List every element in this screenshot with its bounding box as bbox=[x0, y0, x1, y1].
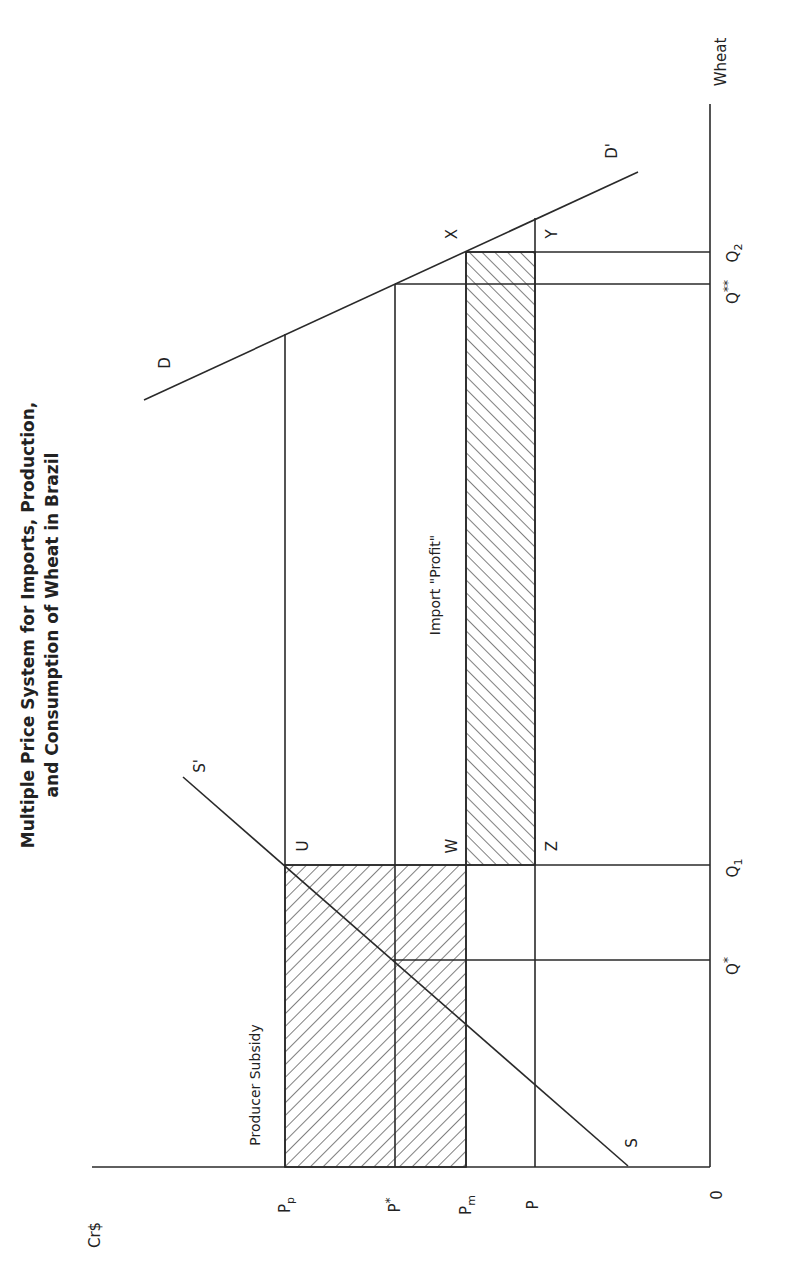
quantity-label-q1: Q1 bbox=[724, 859, 745, 878]
y-axis-label: Cr$ bbox=[86, 1222, 104, 1248]
origin-label: 0 bbox=[708, 1190, 726, 1200]
curve-label-s-prime: S' bbox=[191, 759, 209, 773]
point-label-x: X bbox=[443, 229, 461, 239]
x-axis-label: Wheat bbox=[712, 38, 730, 87]
svg-text:P: P bbox=[524, 1200, 542, 1209]
price-label-pm: Pm bbox=[457, 1195, 478, 1215]
import-profit-label: Import "Profit" bbox=[427, 535, 443, 635]
point-label-w: W bbox=[443, 838, 461, 853]
svg-text:Pp: Pp bbox=[276, 1197, 297, 1213]
diagram-canvas: Multiple Price System for Imports, Produ… bbox=[0, 0, 790, 1274]
producer-subsidy-label: Producer Subsidy bbox=[247, 1024, 263, 1146]
svg-text:Q*: Q* bbox=[721, 957, 742, 975]
svg-text:Q2: Q2 bbox=[724, 244, 745, 263]
price-label-pstar: P* bbox=[383, 1197, 404, 1212]
chart-title: Multiple Price System for Imports, Produ… bbox=[18, 402, 62, 849]
title-line-1: Multiple Price System for Imports, Produ… bbox=[18, 402, 38, 849]
quantity-label-q2: Q2 bbox=[724, 244, 745, 263]
import-profit-region bbox=[466, 252, 535, 865]
point-label-y: Y bbox=[543, 229, 561, 240]
svg-text:Q**: Q** bbox=[721, 280, 742, 304]
curve-label-d-prime: D' bbox=[603, 143, 621, 159]
price-label-pp: Pp bbox=[276, 1197, 297, 1213]
demand-curve bbox=[144, 172, 638, 400]
point-label-u: U bbox=[294, 841, 312, 852]
curve-label-d: D bbox=[156, 357, 174, 369]
quantity-label-qss: Q** bbox=[721, 280, 742, 304]
curve-label-s: S bbox=[623, 1138, 641, 1148]
producer-subsidy-region bbox=[285, 865, 466, 1167]
svg-text:P*: P* bbox=[383, 1197, 404, 1212]
svg-text:Pm: Pm bbox=[457, 1195, 478, 1215]
quantity-label-qstar: Q* bbox=[721, 957, 742, 975]
price-label-p: P bbox=[524, 1200, 542, 1209]
title-line-2: and Consumption of Wheat in Brazil bbox=[42, 453, 62, 798]
point-label-z: Z bbox=[543, 841, 561, 851]
svg-text:Q1: Q1 bbox=[724, 859, 745, 878]
